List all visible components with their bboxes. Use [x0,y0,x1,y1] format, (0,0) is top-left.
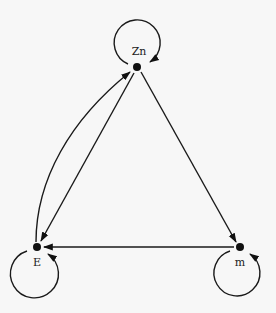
node-e [33,243,41,251]
node-zn [133,63,141,71]
graph-diagram: Zn E m [0,0,276,313]
label-m: m [235,256,246,269]
label-zn: Zn [132,45,147,58]
node-m [236,243,244,251]
edge-zn-to-m [141,72,236,242]
edge-zn-to-e [41,73,134,241]
edge-e-to-zn-curved [36,72,130,242]
label-e: E [33,256,41,269]
